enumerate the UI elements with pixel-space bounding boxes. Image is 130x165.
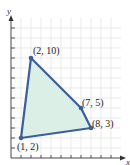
vertex-label: (2, 10) bbox=[33, 45, 60, 57]
y-axis-label: y bbox=[6, 6, 11, 16]
vertex-label: (8, 3) bbox=[92, 118, 114, 130]
vertex-label: (7, 5) bbox=[82, 97, 104, 109]
x-axis-label: x bbox=[125, 157, 130, 165]
feasible-region-chart: y x (2, 10) (7, 5) (8, 3) (1, 2) bbox=[0, 0, 130, 165]
vertex-point bbox=[19, 136, 24, 141]
vertex-point bbox=[29, 56, 34, 61]
y-ticks bbox=[11, 28, 15, 148]
vertex-label: (1, 2) bbox=[17, 141, 39, 153]
